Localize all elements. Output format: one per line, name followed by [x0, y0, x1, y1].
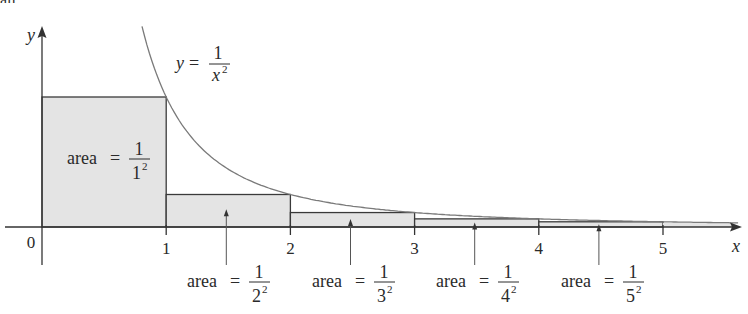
- area-word: area: [561, 271, 591, 291]
- area-label-4: area=142: [436, 223, 519, 306]
- area-numerator: 1: [629, 262, 638, 282]
- area-equals: =: [110, 148, 120, 168]
- area-equals: =: [355, 271, 365, 291]
- area-denominator-exponent: 2: [142, 160, 148, 172]
- area-denominator-base: 4: [501, 286, 510, 306]
- area-denominator-exponent: 2: [387, 283, 393, 295]
- labels: 123450xyy=1x2area=112area=122area=132are…: [25, 25, 740, 306]
- curve-label-numerator: 1: [214, 43, 223, 63]
- area-numerator: 1: [255, 262, 264, 282]
- area-numerator: 1: [504, 262, 513, 282]
- y-axis-label: y: [25, 25, 35, 45]
- area-word: area: [436, 271, 466, 291]
- origin-label: 0: [27, 233, 36, 252]
- area-rectangle-4: [415, 219, 539, 227]
- curve-label-equals: =: [189, 53, 199, 73]
- area-rectangle-1: [42, 97, 166, 227]
- area-denominator-base: 1: [132, 163, 141, 183]
- x-tick-label: 3: [410, 239, 419, 258]
- area-denominator-exponent: 2: [636, 283, 642, 295]
- x-axis-label: x: [731, 236, 740, 256]
- curve-path: [142, 26, 738, 223]
- area-equals: =: [604, 271, 614, 291]
- curve-y-equals-1-over-x-squared: [142, 26, 738, 223]
- area-numerator: 1: [135, 139, 144, 159]
- curve-label-denominator-exponent: 2: [222, 63, 228, 75]
- curve-label-denominator-base: x: [211, 65, 220, 85]
- area-denominator-exponent: 2: [511, 283, 517, 295]
- x-tick-label: 1: [162, 239, 171, 258]
- area-label-5: area=152: [561, 224, 644, 306]
- area-denominator-exponent: 2: [262, 283, 268, 295]
- area-equals: =: [479, 271, 489, 291]
- area-word: area: [67, 148, 97, 168]
- area-rectangle-5: [539, 222, 663, 227]
- x-tick-label: 2: [286, 239, 295, 258]
- riemann-sum-figure: 123450xyy=1x2area=112area=122area=132are…: [0, 0, 748, 314]
- area-word: area: [312, 271, 342, 291]
- area-label-3: area=132: [312, 219, 395, 306]
- x-tick-label: 5: [659, 239, 668, 258]
- area-denominator-base: 5: [626, 286, 635, 306]
- curve-equation-label: y=1x2: [174, 43, 230, 85]
- area-denominator-base: 2: [252, 286, 261, 306]
- curve-label-lhs: y: [174, 53, 184, 73]
- area-equals: =: [230, 271, 240, 291]
- x-tick-label: 4: [535, 239, 544, 258]
- area-word: area: [187, 271, 217, 291]
- area-rectangle-2: [166, 195, 290, 228]
- area-numerator: 1: [380, 262, 389, 282]
- area-denominator-base: 3: [377, 286, 386, 306]
